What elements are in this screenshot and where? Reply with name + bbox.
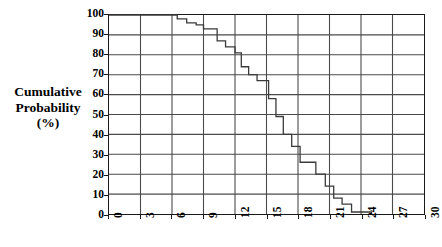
x-axis-tick-label: 9 — [208, 212, 220, 218]
x-axis-tick-label: 24 — [367, 207, 379, 219]
x-axis-tick-label: 6 — [176, 212, 188, 218]
x-axis-tick-label: 18 — [303, 207, 315, 219]
x-axis-tick-mark — [108, 215, 109, 219]
x-axis-tick-label: 15 — [272, 207, 284, 219]
x-axis-tick-mark — [140, 215, 141, 219]
x-axis-tick-mark — [203, 215, 204, 219]
x-axis-tick-label: 3 — [145, 212, 157, 218]
x-axis-tick-label: 12 — [240, 207, 252, 219]
x-axis-tick-label: 21 — [335, 207, 347, 219]
x-axis-tick-mark — [298, 215, 299, 219]
x-axis-tick-mark — [393, 215, 394, 219]
x-axis-tick-label: 27 — [398, 207, 410, 219]
x-axis-tick-mark — [330, 215, 331, 219]
x-axis-tick-mark — [267, 215, 268, 219]
x-axis-tick-mark — [171, 215, 172, 219]
x-axis-tick-mark — [425, 215, 426, 219]
x-axis-tick-mark — [362, 215, 363, 219]
x-axis-tick-label: 30 — [430, 207, 442, 219]
x-axis-tick-label: 0 — [113, 212, 125, 218]
x-axis-tick-mark — [235, 215, 236, 219]
